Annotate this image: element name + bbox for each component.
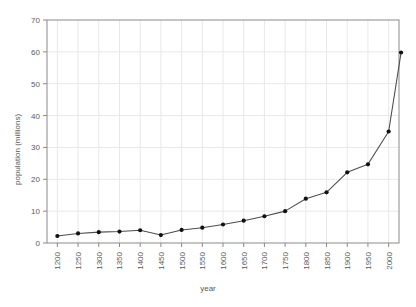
data-point-marker: [55, 234, 59, 238]
data-point-marker: [387, 129, 391, 133]
x-tick-label: 1600: [219, 251, 228, 269]
y-axis-ticks: 010203040506070: [31, 16, 47, 248]
x-tick-label: 1700: [260, 251, 269, 269]
data-point-marker: [200, 226, 204, 230]
data-point-marker: [283, 209, 287, 213]
x-tick-label: 1550: [198, 251, 207, 269]
y-tick-label: 30: [31, 143, 40, 152]
x-tick-label: 1250: [74, 251, 83, 269]
data-point-marker: [76, 231, 80, 235]
data-point-marker: [304, 197, 308, 201]
y-tick-label: 50: [31, 80, 40, 89]
y-tick-label: 40: [31, 112, 40, 121]
data-point-marker: [262, 214, 266, 218]
series-path-population: [57, 52, 401, 235]
grid-lines: [47, 20, 399, 243]
x-tick-label: 1350: [115, 251, 124, 269]
y-tick-label: 20: [31, 175, 40, 184]
x-tick-label: 1900: [343, 251, 352, 269]
y-axis-title: population (millions): [13, 114, 22, 185]
x-axis-ticks: 1200125013001350140014501500155016001650…: [53, 243, 393, 270]
x-tick-label: 1500: [178, 251, 187, 269]
data-point-marker: [399, 50, 403, 54]
data-point-marker: [345, 170, 349, 174]
data-point-marker: [138, 228, 142, 232]
y-tick-label: 0: [36, 239, 41, 248]
data-point-marker: [366, 162, 370, 166]
data-point-marker: [221, 222, 225, 226]
population-line-chart: population (millions) year 0102030405060…: [0, 0, 416, 307]
data-markers: [55, 50, 403, 238]
x-tick-label: 1300: [95, 251, 104, 269]
data-line: [57, 52, 401, 235]
data-point-marker: [159, 233, 163, 237]
x-tick-label: 1200: [53, 251, 62, 269]
x-tick-label: 1650: [240, 251, 249, 269]
x-tick-label: 1850: [323, 251, 332, 269]
data-point-marker: [179, 228, 183, 232]
x-tick-label: 1750: [281, 251, 290, 269]
data-point-marker: [324, 190, 328, 194]
x-tick-label: 1450: [157, 251, 166, 269]
x-tick-label: 1800: [302, 251, 311, 269]
data-point-marker: [242, 219, 246, 223]
y-tick-label: 70: [31, 16, 40, 25]
plot-area: 010203040506070 120012501300135014001450…: [0, 0, 416, 307]
y-tick-label: 10: [31, 207, 40, 216]
data-point-marker: [97, 230, 101, 234]
x-tick-label: 1950: [364, 251, 373, 269]
data-point-marker: [117, 229, 121, 233]
x-axis-title: year: [0, 284, 416, 293]
x-tick-label: 2000: [385, 251, 394, 269]
y-tick-label: 60: [31, 48, 40, 57]
x-tick-label: 1400: [136, 251, 145, 269]
